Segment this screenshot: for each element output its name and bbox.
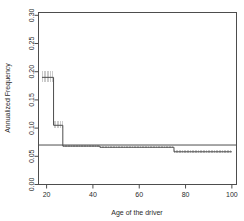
y-tick-label: 0.10 [28,121,35,135]
y-tick-label: 0.20 [28,65,35,79]
x-tick-label: 40 [89,191,97,198]
x-tick-label: 80 [182,191,190,198]
y-tick-label: 0.00 [28,178,35,192]
x-tick-label: 100 [226,191,238,198]
x-axis-title: Age of the driver [111,209,163,217]
y-tick-label: 0.05 [28,149,35,163]
x-tick-label: 60 [135,191,143,198]
x-tick-label: 20 [43,191,51,198]
step-chart-svg: 20406080100 0.000.050.100.150.200.250.30… [0,0,244,221]
y-tick-label: 0.15 [28,93,35,107]
y-axis-title: Annualized Frequency [4,63,12,133]
chart-background [0,0,244,221]
y-tick-label: 0.25 [28,37,35,51]
chart-container: 20406080100 0.000.050.100.150.200.250.30… [0,0,244,221]
y-tick-label: 0.30 [28,8,35,22]
